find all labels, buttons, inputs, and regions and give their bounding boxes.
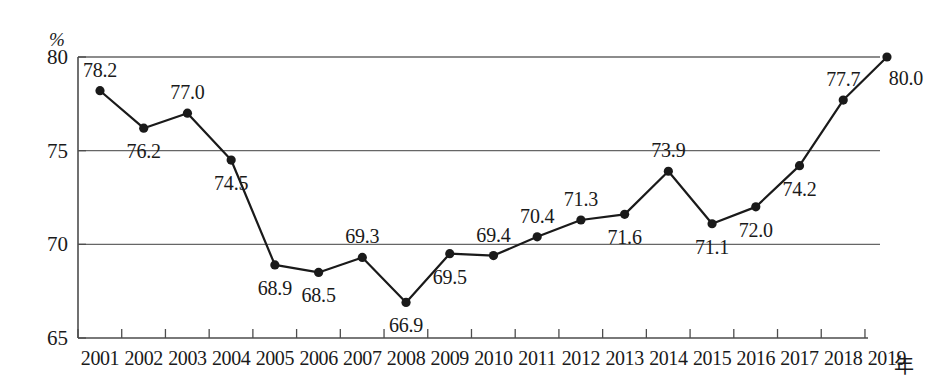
data-point-marker (707, 219, 716, 228)
data-point-label: 66.9 (379, 315, 433, 335)
data-point-marker (664, 167, 673, 176)
data-point-marker (489, 251, 498, 260)
data-point-label: 74.5 (204, 173, 258, 193)
data-point-label: 77.0 (160, 82, 214, 102)
data-point-marker (270, 260, 279, 269)
data-point-marker (445, 249, 454, 258)
data-point-marker (839, 95, 848, 104)
data-point-label: 77.7 (816, 69, 870, 89)
data-point-label: 71.3 (554, 189, 608, 209)
y-axis-tick-label: 65 (22, 328, 68, 349)
data-point-marker (533, 232, 542, 241)
data-point-label: 69.5 (423, 267, 477, 287)
data-point-marker (95, 86, 104, 95)
data-point-marker (620, 210, 629, 219)
y-axis-tick-label: 70 (22, 234, 68, 255)
y-axis-tick-label: 75 (22, 141, 68, 162)
data-point-label: 69.4 (466, 225, 520, 245)
data-point-marker (401, 298, 410, 307)
data-point-label: 76.2 (117, 141, 171, 161)
data-point-marker (183, 109, 192, 118)
data-point-marker (751, 202, 760, 211)
data-point-label: 72.0 (729, 220, 783, 240)
x-axis-ticks (78, 329, 865, 338)
data-point-label: 68.5 (292, 285, 346, 305)
data-point-marker (882, 52, 891, 61)
data-point-marker (139, 124, 148, 133)
data-point-marker (576, 215, 585, 224)
line-chart: % 年 65707580 200120022003200420052006200… (0, 0, 932, 389)
data-point-label: 80.0 (879, 68, 932, 88)
data-point-label: 73.9 (641, 140, 695, 160)
data-point-label: 69.3 (335, 226, 389, 246)
data-point-label: 71.6 (598, 227, 652, 247)
data-point-marker (358, 253, 367, 262)
data-point-marker (795, 161, 804, 170)
y-axis-tick-label: 80 (22, 47, 68, 68)
data-point-marker (227, 155, 236, 164)
data-point-label: 74.2 (773, 179, 827, 199)
data-point-label: 78.2 (73, 60, 127, 80)
data-point-marker (314, 268, 323, 277)
x-axis-tick-label: 2019 (861, 348, 913, 368)
y-axis-ticks (78, 57, 86, 338)
